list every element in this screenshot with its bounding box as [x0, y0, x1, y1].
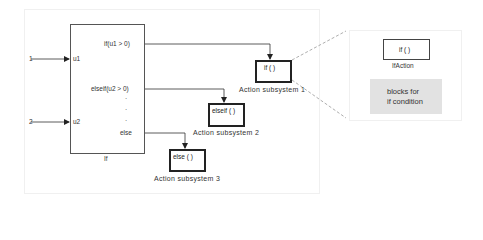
port-u2: u2 — [73, 119, 80, 126]
subsystem-3-label: Action subsystem 3 — [154, 175, 220, 182]
output-elseif: elseif(u2 > 0) — [91, 86, 129, 93]
subsystem-1-label: Action subsystem 1 — [239, 86, 305, 93]
subsystem-3-text: else ( ) — [173, 153, 193, 160]
subsystem-1-text: if ( ) — [264, 64, 275, 71]
ifaction-text: if ( ) — [399, 46, 410, 53]
subsystem-2-label: Action subsystem 2 — [193, 129, 259, 136]
ellipsis-dot: · — [125, 118, 127, 125]
output-else: else — [120, 130, 132, 137]
note-line-2: if condition — [387, 98, 423, 106]
port-u1: u1 — [73, 56, 80, 63]
output-if: if(u1 > 0) — [104, 41, 130, 48]
ellipsis-dot: · — [125, 96, 127, 103]
action-subsystem-1[interactable]: if ( ) — [255, 60, 292, 83]
input-source-2: 2 — [29, 119, 33, 126]
action-subsystem-3[interactable]: else ( ) — [169, 149, 206, 172]
ifaction-label: IfAction — [392, 63, 414, 70]
ellipsis-dot: · — [125, 107, 127, 114]
input-source-1: 1 — [29, 56, 33, 63]
subsystem-2-text: elseif ( ) — [212, 107, 235, 114]
note-line-1: blocks for — [387, 88, 419, 96]
action-subsystem-2[interactable]: elseif ( ) — [208, 103, 245, 127]
ifaction-block[interactable]: if ( ) — [383, 39, 430, 60]
if-block-label: If — [104, 156, 108, 163]
